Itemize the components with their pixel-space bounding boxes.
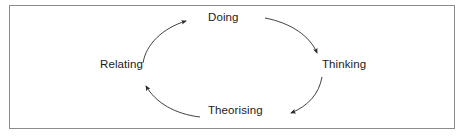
arrow-theorising-to-relating	[146, 86, 200, 117]
node-label-relating: Relating	[100, 58, 143, 71]
node-label-thinking: Thinking	[322, 58, 366, 71]
arrow-thinking-to-theorising	[291, 77, 322, 113]
node-label-doing: Doing	[208, 11, 239, 24]
learning-cycle-figure: Doing Thinking Theorising Relating	[0, 0, 465, 138]
arrow-doing-to-thinking	[265, 18, 317, 53]
node-label-theorising: Theorising	[208, 104, 263, 117]
arrow-relating-to-doing	[143, 21, 186, 63]
